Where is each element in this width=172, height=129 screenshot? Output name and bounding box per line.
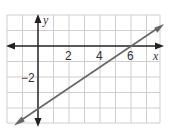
grid	[7, 15, 160, 123]
x-tick-6: 6	[127, 49, 134, 63]
x-tick-2: 2	[65, 49, 72, 63]
coordinate-plane: y x 2 4 6 −2	[0, 0, 172, 129]
x-axis-label: x	[152, 49, 159, 63]
y-tick-neg2: −2	[21, 71, 35, 85]
plotted-line	[14, 24, 164, 126]
x-tick-4: 4	[96, 49, 103, 63]
y-axis-label: y	[42, 13, 49, 27]
